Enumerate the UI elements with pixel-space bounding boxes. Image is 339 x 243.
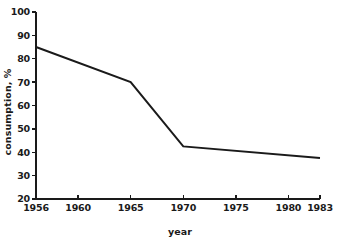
y-axis-tick-label: 100: [11, 6, 31, 17]
y-axis-title: consumption, %: [2, 68, 13, 155]
x-axis-tick-label: 1956: [23, 202, 49, 213]
y-axis-tick-label: 50: [17, 123, 30, 134]
x-axis-tick-label: 1975: [223, 202, 249, 213]
y-axis-tick-label: 30: [17, 170, 30, 181]
x-axis-tick-label: 1983: [307, 202, 333, 213]
y-axis-tick-label: 40: [17, 147, 30, 158]
x-axis-title: year: [168, 226, 192, 237]
y-axis-tick-label: 70: [17, 77, 30, 88]
y-axis-tick-label: 90: [17, 30, 30, 41]
data-series-line: [36, 47, 320, 158]
x-axis-tick-label: 1965: [118, 202, 144, 213]
y-axis-tick-labels: 2030405060708090100: [11, 6, 31, 204]
x-axis-tick-labels: 1956196019651970197519801983: [23, 202, 333, 213]
x-axis-tick-label: 1970: [170, 202, 196, 213]
x-axis-tick-label: 1980: [276, 202, 302, 213]
x-axis-tick-label: 1960: [65, 202, 91, 213]
chart-canvas: 2030405060708090100 19561960196519701975…: [0, 0, 339, 243]
y-axis-tick-label: 60: [17, 100, 30, 111]
line-chart: 2030405060708090100 19561960196519701975…: [0, 0, 339, 243]
y-axis-tick-label: 80: [17, 53, 30, 64]
